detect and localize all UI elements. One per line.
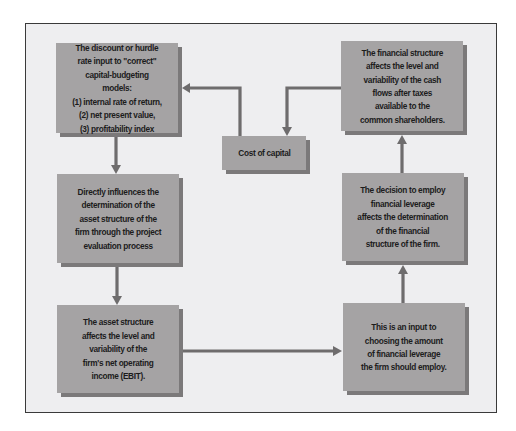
arrowhead-down-icon [282,127,292,136]
arrowhead-down-icon [112,296,122,305]
node-asset-structure-effect: The asset structure affects the level an… [57,305,179,393]
node-discount-rate: The discount or hurdle rate input to "co… [56,43,178,133]
node-text: Directly influences the determination of… [75,185,161,252]
arrowhead-right-icon [333,346,342,356]
node-cost-of-capital: Cost of capital [222,136,306,170]
arrow-financial-structure-to-cost [287,88,341,128]
node-text: The financial structure affects the leve… [360,46,445,126]
node-text: The discount or hurdle rate input to "co… [70,41,165,135]
arrowhead-left-icon [182,83,190,93]
node-text: This is an input to choosing the amount … [361,320,447,374]
node-text: The decision to employ financial leverag… [358,183,449,250]
arrowhead-up-icon [398,265,408,274]
node-asset-structure-determination: Directly influences the determination of… [57,174,179,263]
node-text: Cost of capital [238,146,290,159]
node-leverage-input: This is an input to choosing the amount … [343,303,465,391]
node-text: The asset structure affects the level an… [82,315,155,382]
arrow-cost-to-discount [188,88,240,136]
node-financial-leverage-decision: The decision to employ financial leverag… [342,173,464,261]
arrowhead-down-icon [111,165,121,174]
node-financial-structure-effect: The financial structure affects the leve… [341,41,463,131]
arrowhead-up-icon [397,135,407,144]
